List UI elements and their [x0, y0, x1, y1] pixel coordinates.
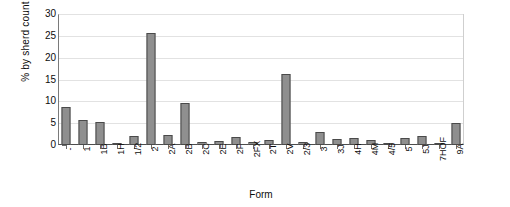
bar-slot	[193, 14, 210, 145]
bar[interactable]	[79, 120, 88, 145]
bar-slot	[92, 14, 109, 145]
bars-layer	[58, 14, 464, 145]
x-label-slot: 5J	[413, 149, 430, 187]
bar-slot	[396, 14, 413, 145]
bar-slot	[363, 14, 380, 145]
y-tick-label: 20	[16, 53, 56, 63]
bar[interactable]	[62, 107, 71, 145]
bar-slot	[244, 14, 261, 145]
x-label-slot: 2C	[193, 149, 210, 187]
x-label-slot: 3	[312, 149, 329, 187]
x-label-slot: 2B	[176, 149, 193, 187]
bar-slot	[295, 14, 312, 145]
bar-slot	[329, 14, 346, 145]
x-label-slot: 2A	[160, 149, 177, 187]
x-label-slot: 3J	[329, 149, 346, 187]
y-tick-label: 15	[16, 75, 56, 85]
x-label-slot: 2V	[278, 149, 295, 187]
y-tick-label: 5	[16, 118, 56, 128]
bar-slot	[278, 14, 295, 145]
bar-slot	[312, 14, 329, 145]
x-axis-title: Form	[58, 189, 464, 200]
bar[interactable]	[451, 123, 460, 145]
x-label-slot: 7HOF	[430, 149, 447, 187]
bar-slot	[227, 14, 244, 145]
bar-slot	[58, 14, 75, 145]
bar-slot	[160, 14, 177, 145]
y-tick-label: 10	[16, 96, 56, 106]
bar-slot	[379, 14, 396, 145]
bar-slot	[413, 14, 430, 145]
x-label-slot: 4/5	[379, 149, 396, 187]
bar[interactable]	[282, 74, 291, 145]
x-label-slot: 9A	[447, 149, 464, 187]
x-label-slot: 2F	[227, 149, 244, 187]
bar-slot	[447, 14, 464, 145]
x-label-slot: 2E	[210, 149, 227, 187]
y-tick-label: 30	[16, 9, 56, 19]
bar-slot	[176, 14, 193, 145]
x-label-slot: -	[58, 149, 75, 187]
y-tick-label: 0	[16, 140, 56, 150]
x-label-slot: 2/3	[295, 149, 312, 187]
x-label-slot: 4H	[346, 149, 363, 187]
x-tick-label: 9A	[456, 143, 465, 154]
x-label-slot: 2	[143, 149, 160, 187]
x-label-slot: 2FX	[244, 149, 261, 187]
bar[interactable]	[180, 103, 189, 145]
bar-slot	[143, 14, 160, 145]
x-axis-tick-labels: -11B1H1/222A2B2C2E2F2FX2T2V2/333J4H4M4/5…	[58, 149, 464, 187]
bar-slot	[346, 14, 363, 145]
x-label-slot: 5	[396, 149, 413, 187]
bar[interactable]	[316, 132, 325, 145]
bar-chart-figure: % by sherd count 051015202530 -11B1H1/22…	[0, 0, 510, 207]
bar[interactable]	[400, 138, 409, 145]
x-label-slot: 1/2	[126, 149, 143, 187]
bar-slot	[109, 14, 126, 145]
bar-slot	[126, 14, 143, 145]
bar-slot	[75, 14, 92, 145]
bar[interactable]	[96, 122, 105, 145]
x-label-slot: 1	[75, 149, 92, 187]
x-label-slot: 1B	[92, 149, 109, 187]
x-label-slot: 4M	[363, 149, 380, 187]
bar-slot	[210, 14, 227, 145]
bar[interactable]	[147, 33, 156, 145]
bar-slot	[430, 14, 447, 145]
x-label-slot: 2T	[261, 149, 278, 187]
x-label-slot: 1H	[109, 149, 126, 187]
y-axis-tick-labels: 051015202530	[8, 0, 56, 207]
y-tick-label: 25	[16, 31, 56, 41]
bar-slot	[261, 14, 278, 145]
